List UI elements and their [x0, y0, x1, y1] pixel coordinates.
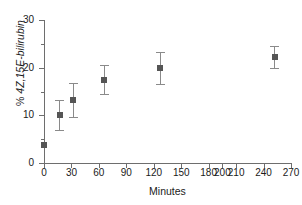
data-marker — [70, 97, 76, 103]
y-axis-title: % 4Z,15E-bilirubin — [14, 0, 26, 138]
data-point — [94, 0, 114, 205]
data-marker — [57, 112, 63, 118]
data-point — [265, 0, 285, 205]
error-bar-cap-upper — [270, 46, 279, 47]
error-bar-cap-lower — [270, 68, 279, 69]
error-bar-cap-lower — [100, 94, 109, 95]
x-axis-title: Minutes — [44, 185, 291, 197]
error-bar-cap-lower — [69, 117, 78, 118]
x-tick-label-210: 210 — [221, 168, 251, 178]
x-tick-label-150: 150 — [166, 168, 196, 178]
error-bar-cap-upper — [100, 65, 109, 66]
data-point — [63, 0, 83, 205]
data-marker — [41, 142, 47, 148]
y-axis-title-prefix: % — [14, 94, 26, 106]
error-bar-cap-lower — [156, 84, 165, 85]
data-marker — [272, 54, 278, 60]
chart-figure: 0102030 0306090120150180200210240270 % 4… — [0, 0, 302, 205]
data-marker — [157, 65, 163, 71]
y-tick-label-0: 0 — [12, 158, 34, 168]
data-marker — [101, 77, 107, 83]
error-bar-cap-upper — [156, 52, 165, 53]
error-bar-cap-upper — [69, 83, 78, 84]
x-tick-label-90: 90 — [111, 168, 141, 178]
y-axis-title-italic: 4Z,15E-bilirubin — [14, 20, 26, 94]
data-point — [150, 0, 170, 205]
